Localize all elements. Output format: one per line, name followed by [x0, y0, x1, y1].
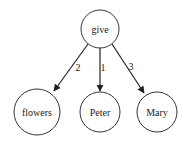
edge-give-mary: 3	[112, 44, 144, 93]
node-give: give	[81, 10, 119, 48]
dependency-diagram: 2 1 3 give flowers Peter Mary	[0, 0, 189, 148]
node-label-peter: Peter	[90, 107, 111, 118]
node-mary: Mary	[137, 92, 177, 132]
edge-give-flowers: 2	[54, 44, 88, 91]
edge-label-1: 1	[101, 62, 106, 73]
node-label-flowers: flowers	[22, 107, 52, 118]
edge-label-2: 2	[76, 62, 81, 73]
node-peter: Peter	[80, 92, 120, 132]
node-label-mary: Mary	[146, 107, 168, 118]
node-flowers: flowers	[14, 89, 60, 135]
node-label-give: give	[91, 24, 109, 35]
edge-label-3: 3	[129, 61, 134, 72]
edge-give-peter: 1	[100, 48, 106, 91]
